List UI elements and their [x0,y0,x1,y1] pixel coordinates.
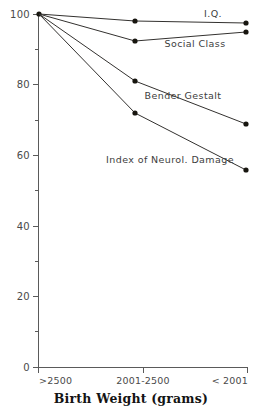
series-label-social-class: Social Class [165,38,226,49]
series-label-index-neurol-damage: Index of Neurol. Damage [106,154,234,165]
series-label-bender-gestalt: Bender Gestalt [145,90,222,101]
x-axis: >2500 2001-2500 < 2001 [39,368,249,387]
series-iq: I.Q. [36,8,248,26]
series-social-class: Social Class [39,14,249,49]
y-tick-label-80: 80 [17,79,30,90]
data-point-iq-2 [243,20,248,25]
x-category-label-1: 2001-2500 [116,375,170,386]
y-tick-label-100: 100 [10,9,30,20]
line-chart-plot: 100 80 60 40 20 0 >2500 2001-2500 < 2001… [0,0,262,412]
data-point-bender-gestalt-2 [243,121,248,126]
x-axis-title: Birth Weight (grams) [0,391,262,406]
series-bender-gestalt: Bender Gestalt [39,14,249,127]
y-tick-label-60: 60 [17,150,30,161]
series-line-bender-gestalt [39,14,246,124]
data-point-index-neurol-damage-2 [243,167,248,172]
data-point-social-class-1 [132,38,137,43]
x-category-label-0: >2500 [39,375,72,386]
series-label-iq: I.Q. [204,8,222,19]
y-tick-label-0: 0 [23,362,30,373]
data-point-social-class-2 [243,29,248,34]
y-axis: 100 80 60 40 20 0 [10,9,39,373]
y-tick-label-20: 20 [17,291,30,302]
chart-container: 100 80 60 40 20 0 >2500 2001-2500 < 2001… [0,0,262,412]
data-point-index-neurol-damage-1 [132,110,137,115]
x-category-label-2: < 2001 [212,375,248,386]
data-point-bender-gestalt-1 [132,78,137,83]
y-tick-label-40: 40 [17,221,30,232]
data-point-iq-1 [132,18,137,23]
